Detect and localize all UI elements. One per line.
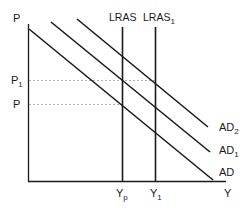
ad-line <box>29 29 213 180</box>
ad2-line <box>77 19 208 127</box>
ad2-label: AD2 <box>219 121 239 136</box>
p-label: P <box>13 98 20 110</box>
y-axis-label: P <box>13 12 20 24</box>
ad1-line <box>51 22 210 152</box>
lras-label: LRAS <box>109 11 136 23</box>
y1-label: Y1 <box>150 187 162 202</box>
ad-lras-diagram: P Y P1 P Yp Y1 LRAS LRAS1 AD2 AD1 AD <box>0 0 250 208</box>
x-axis-label: Y <box>224 187 232 199</box>
yp-label: Yp <box>116 187 128 202</box>
lras1-label: LRAS1 <box>143 11 175 26</box>
ad1-label: AD1 <box>219 144 239 159</box>
ad-label: AD <box>219 166 234 178</box>
p1-label: P1 <box>11 74 23 89</box>
